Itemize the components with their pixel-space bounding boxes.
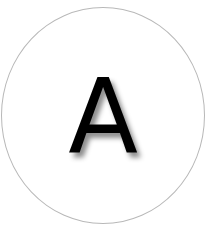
letter-badge: A: [1, 7, 205, 224]
badge-letter: A: [3, 64, 203, 168]
